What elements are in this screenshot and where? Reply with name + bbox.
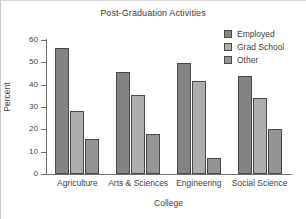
y-axis-tick xyxy=(41,62,46,63)
chart-figure: Post-Graduation Activities 0102030405060… xyxy=(0,0,306,219)
y-axis-tick xyxy=(41,174,46,175)
y-axis-tick-label: 40 xyxy=(14,81,38,89)
bar-social-science-employed xyxy=(238,76,252,174)
y-axis-tick xyxy=(41,152,46,153)
bar-arts-sciences-other xyxy=(146,134,160,174)
legend-item-grad-school: Grad School xyxy=(224,41,284,53)
legend-item-label: Other xyxy=(237,56,258,65)
x-axis-title: College xyxy=(47,198,290,208)
legend-item-employed: Employed xyxy=(224,28,284,40)
bar-arts-sciences-employed xyxy=(116,72,130,174)
legend-swatch-icon xyxy=(224,30,232,38)
y-axis-tick-label-text: 20 xyxy=(16,125,38,133)
y-axis-tick-label: 0 xyxy=(14,170,38,178)
bar-agriculture-employed xyxy=(55,48,69,174)
legend-swatch-icon xyxy=(224,56,232,64)
bar-agriculture-other xyxy=(85,139,99,174)
x-axis-line xyxy=(46,174,292,175)
legend-item-other: Other xyxy=(224,54,284,66)
legend-item-label: Grad School xyxy=(237,43,284,52)
y-axis-title: Percent xyxy=(2,57,12,137)
y-axis-tick xyxy=(41,85,46,86)
y-axis-tick-label: 50 xyxy=(14,58,38,66)
y-axis-tick-label-text: 40 xyxy=(16,81,38,89)
x-axis-label-social-science: Social Science xyxy=(215,178,305,188)
bar-social-science-grad-school xyxy=(253,98,267,174)
bar-engineering-employed xyxy=(177,63,191,174)
legend-item-label: Employed xyxy=(237,30,275,39)
y-axis-tick-label: 10 xyxy=(14,148,38,156)
y-axis-tick-label-text: 0 xyxy=(16,170,38,178)
chart-legend: EmployedGrad SchoolOther xyxy=(224,28,284,67)
bar-social-science-other xyxy=(268,129,282,174)
y-axis-tick-label: 20 xyxy=(14,125,38,133)
y-axis-tick-label-text: 10 xyxy=(16,148,38,156)
bar-engineering-other xyxy=(207,158,221,174)
chart-title: Post-Graduation Activities xyxy=(0,8,306,18)
y-axis-tick-label: 60 xyxy=(14,36,38,44)
bar-agriculture-grad-school xyxy=(70,111,84,174)
y-axis-tick-label-text: 50 xyxy=(16,58,38,66)
bar-arts-sciences-grad-school xyxy=(131,95,145,174)
y-axis-tick-label-text: 60 xyxy=(16,36,38,44)
y-axis-tick xyxy=(41,40,46,41)
y-axis-tick-label: 30 xyxy=(14,103,38,111)
y-axis-tick xyxy=(41,129,46,130)
y-axis-tick-label-text: 30 xyxy=(16,103,38,111)
y-axis-tick xyxy=(41,107,46,108)
legend-swatch-icon xyxy=(224,43,232,51)
bar-engineering-grad-school xyxy=(192,81,206,174)
